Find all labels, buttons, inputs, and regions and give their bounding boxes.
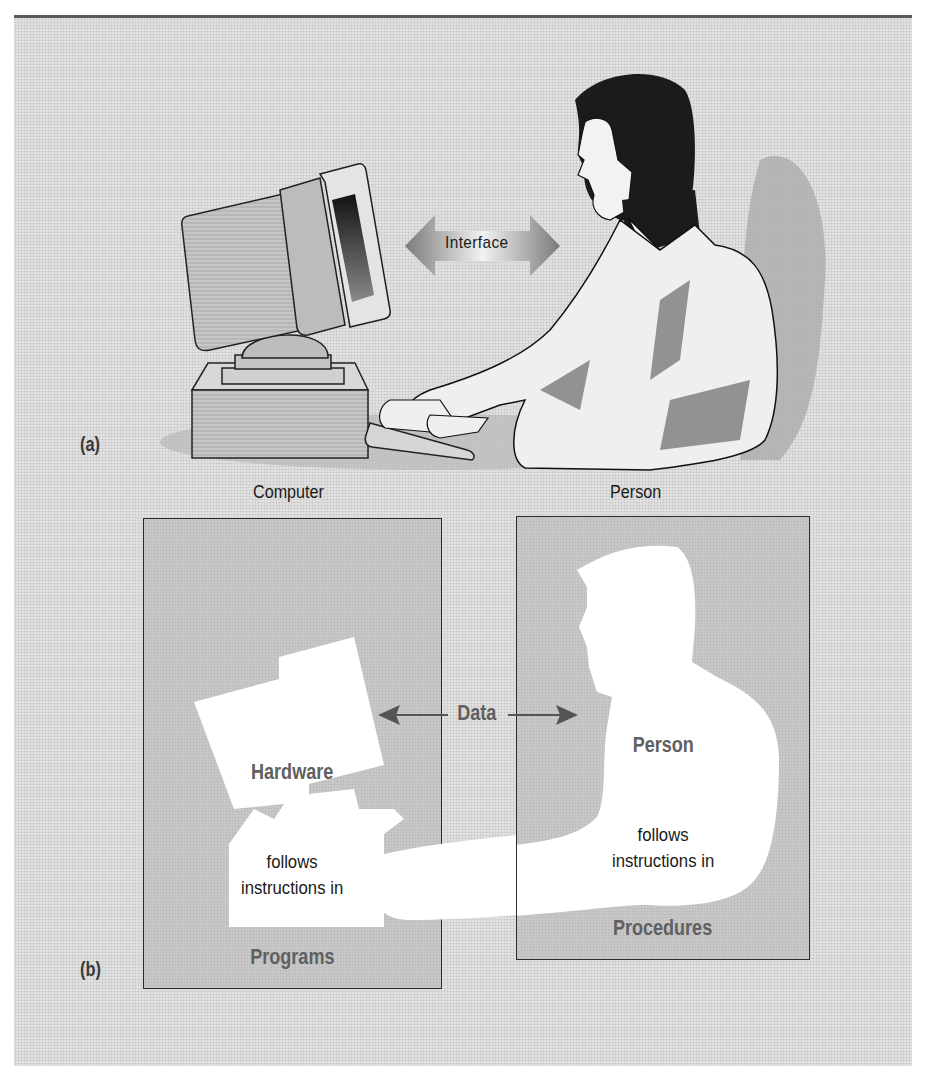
interface-arrow-label: Interface — [445, 233, 509, 253]
programs-footer: Programs — [144, 944, 441, 970]
person-title: Person — [517, 732, 809, 758]
hardware-title: Hardware — [144, 759, 441, 785]
arm-silhouette-icon — [360, 820, 560, 930]
part-b-label: (b) — [80, 958, 101, 981]
data-arrow-label: Data — [453, 700, 501, 726]
part-a-label: (a) — [80, 433, 100, 456]
procedures-footer: Procedures — [517, 915, 809, 941]
computer-caption: Computer — [253, 481, 324, 503]
person-body: follows instructions in — [517, 822, 809, 874]
person-caption: Person — [610, 481, 661, 503]
person-box: Person follows instructions in Procedure… — [516, 516, 810, 960]
